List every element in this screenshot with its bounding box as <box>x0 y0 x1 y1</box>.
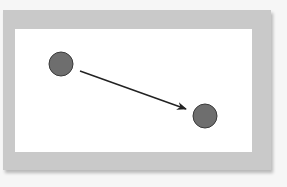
node-circle-a <box>49 52 73 76</box>
arrow-edge <box>80 71 186 109</box>
node-circle-b <box>193 104 217 128</box>
diagram-svg <box>0 0 287 187</box>
